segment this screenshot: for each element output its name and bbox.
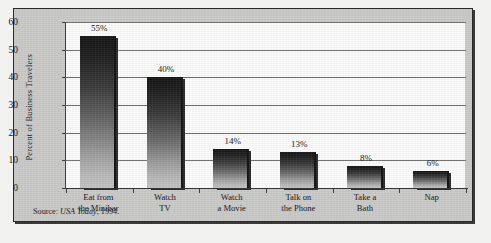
y-axis-title: Percent of Business Travelers — [21, 23, 37, 191]
bar-value-label: 14% — [199, 136, 266, 146]
bar[interactable] — [347, 166, 383, 188]
x-category-label: Nap — [398, 192, 465, 203]
bar-group[interactable]: 55% — [66, 22, 133, 188]
x-category-line: Eat from — [65, 192, 132, 203]
x-category-line: Nap — [398, 192, 465, 203]
y-tick-mark — [62, 22, 66, 23]
bar-group[interactable]: 8% — [333, 22, 400, 188]
x-category-line: Watch — [132, 192, 199, 203]
bar-group[interactable]: 6% — [399, 22, 466, 188]
bar-value-label: 13% — [266, 139, 333, 149]
x-category-line: Talk on — [265, 192, 332, 203]
y-tick-label: 10 — [0, 155, 18, 165]
bar-group[interactable]: 14% — [199, 22, 266, 188]
bar-value-label: 6% — [399, 158, 466, 168]
x-category-label: WatchTV — [132, 192, 199, 213]
bar[interactable] — [280, 152, 316, 188]
source-prefix: Source: — [33, 207, 60, 216]
bar[interactable] — [147, 77, 183, 188]
x-category-label: Take aBath — [332, 192, 399, 213]
x-category-line: the Phone — [265, 203, 332, 214]
x-category-line: Bath — [332, 203, 399, 214]
bar-group[interactable]: 40% — [133, 22, 200, 188]
chart-frame: Percent of Business Travelers 6050403020… — [13, 8, 473, 222]
bar[interactable] — [413, 171, 449, 188]
y-tick-mark — [62, 105, 66, 106]
y-tick-label: 50 — [0, 45, 18, 55]
x-category-label: Talk onthe Phone — [265, 192, 332, 213]
y-tick-mark — [62, 50, 66, 51]
y-tick-label: 20 — [0, 128, 18, 138]
y-tick-label: 40 — [0, 72, 18, 82]
x-category-line: a Movie — [198, 203, 265, 214]
y-axis-title-text: Percent of Business Travelers — [24, 54, 35, 161]
x-category-line: TV — [132, 203, 199, 214]
bar-value-label: 8% — [333, 153, 400, 163]
x-category-label: Watcha Movie — [198, 192, 265, 213]
y-tick-label: 30 — [0, 100, 18, 110]
x-category-line: Watch — [198, 192, 265, 203]
scanned-page: Percent of Business Travelers 6050403020… — [0, 0, 491, 243]
source-note: Source: USA Today, 1994. — [33, 207, 119, 216]
bar-value-label: 40% — [133, 64, 200, 74]
bar-group[interactable]: 13% — [266, 22, 333, 188]
x-axis-labels: Eat fromthe MinibarWatchTVWatcha MovieTa… — [65, 192, 465, 218]
bar[interactable] — [80, 36, 116, 188]
y-tick-label: 60 — [0, 17, 18, 27]
bar[interactable] — [213, 149, 249, 188]
y-tick-mark — [62, 160, 66, 161]
y-tick-mark — [62, 77, 66, 78]
y-tick-mark — [62, 133, 66, 134]
source-publication: USA Today — [60, 207, 97, 216]
x-category-line: Take a — [332, 192, 399, 203]
source-suffix: , 1994. — [97, 207, 120, 216]
plot-area: 55%40%14%13%8%6% — [65, 22, 465, 188]
x-axis-line — [66, 188, 468, 189]
y-tick-label: 0 — [0, 183, 18, 193]
bar-value-label: 55% — [66, 23, 133, 33]
y-tick-mark — [62, 188, 66, 189]
